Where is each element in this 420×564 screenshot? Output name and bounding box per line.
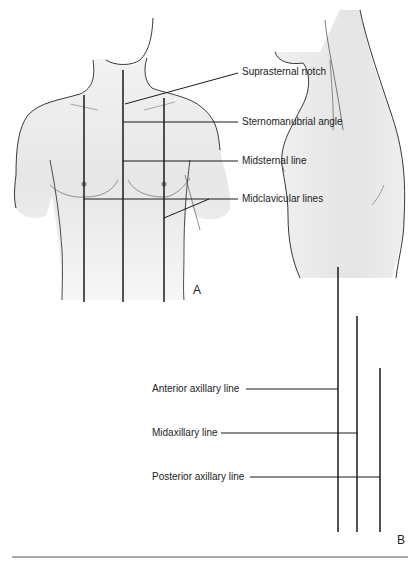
label-posterior-axillary-line: Posterior axillary line (152, 471, 244, 483)
figure-a-label: A (193, 283, 201, 297)
label-midclavicular-lines: Midclavicular lines (242, 193, 323, 205)
label-midaxillary-line: Midaxillary line (152, 427, 218, 439)
label-anterior-axillary-line: Anterior axillary line (152, 383, 239, 395)
figure-b-label: B (397, 533, 405, 547)
label-sternomanubrial-angle: Sternomanubrial angle (242, 116, 343, 128)
side-reference-lines (221, 267, 380, 532)
side-torso-figure (275, 10, 405, 278)
label-midsternal-line: Midsternal line (242, 155, 306, 167)
label-suprasternal-notch: Suprasternal notch (242, 66, 326, 78)
